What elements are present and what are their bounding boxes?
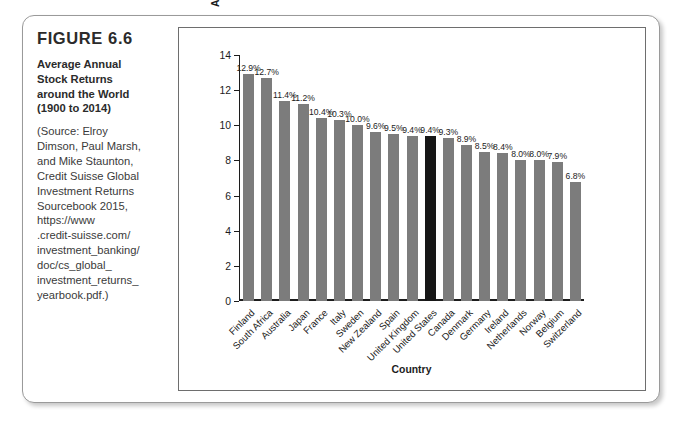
y-axis-tick-label: 12 [219,85,231,96]
figure-source-line: investment_banking/ [37,243,168,258]
bar-slot[interactable]: 10.3% [331,55,349,301]
figure-title-line: Average Annual [37,57,168,72]
bar[interactable]: 12.9% [243,74,254,301]
y-axis-tick-mark [234,196,239,197]
bar[interactable]: 9.3% [443,138,454,301]
bar-value-label: 12.7% [255,67,279,77]
figure-source-line: .credit-suisse.com/ [37,228,168,243]
bar-value-label: 9.3% [439,127,459,137]
bar-value-label: 9.4% [402,125,422,135]
bar-slot[interactable]: 9.4% [422,55,440,301]
figure-source-line: Sourcebook 2015, [37,199,168,214]
bar-slot[interactable]: 10.0% [349,55,367,301]
bar[interactable]: 8.9% [461,145,472,301]
bar[interactable]: 12.7% [261,78,272,301]
bar[interactable]: 10.0% [352,125,363,301]
bar[interactable]: 9.4% [407,136,418,301]
y-axis-title: Average Annual Stock Return [209,0,223,50]
bar[interactable]: 6.8% [570,182,581,301]
bar[interactable]: 10.4% [316,118,327,301]
bar-value-label: 11.2% [291,93,315,103]
bar-slot[interactable]: 9.5% [385,55,403,301]
bar-slot[interactable]: 8.0% [531,55,549,301]
bar-slot[interactable]: 9.4% [404,55,422,301]
bar-value-label: 8.0% [511,149,531,159]
y-axis-tick-mark [234,125,239,126]
bar-slot[interactable]: 8.4% [494,55,512,301]
figure-source-line: Dimson, Paul Marsh, [37,139,168,154]
figure-title-line: (1900 to 2014) [37,101,168,116]
bar-slot[interactable]: 11.2% [295,55,313,301]
figure-number: FIGURE 6.6 [37,29,168,48]
bar[interactable]: 8.0% [515,160,526,301]
figure-source-line: Investment Returns [37,184,168,199]
bar-slot[interactable]: 12.9% [240,55,258,301]
y-axis-tick-mark [234,301,239,302]
bar-value-label: 9.5% [384,123,404,133]
figure-card: FIGURE 6.6 Average AnnualStock Returnsar… [22,15,660,403]
bar[interactable]: 9.5% [388,134,399,301]
bar-slot[interactable]: 7.9% [549,55,567,301]
figure-source-line: Credit Suisse Global [37,169,168,184]
bar-slot[interactable]: 8.9% [458,55,476,301]
bar[interactable]: 11.2% [298,104,309,301]
y-axis-tick-mark [234,266,239,267]
x-axis-title: Country [239,364,584,375]
bar-slot[interactable]: 11.4% [276,55,294,301]
bar[interactable]: 8.4% [497,153,508,301]
bar-slot[interactable]: 9.6% [367,55,385,301]
bar-slot[interactable]: 8.5% [476,55,494,301]
bar-slot[interactable]: 10.4% [313,55,331,301]
figure-source-line: doc/cs_global_ [37,258,168,273]
bar[interactable]: 9.6% [370,132,381,301]
bar[interactable]: 9.4% [425,136,436,301]
figure-source-line: and Mike Staunton, [37,154,168,169]
bar-value-label: 8.9% [457,134,477,144]
bar[interactable]: 8.5% [479,152,490,301]
y-axis-tick-label: 4 [225,225,231,236]
figure-source-line: https://www [37,213,168,228]
figure-title: Average AnnualStock Returnsaround the Wo… [37,57,168,116]
bar-value-label: 9.4% [420,125,440,135]
chart-panel: Average Annual Stock Return 02468101214 … [178,27,646,391]
bar-slot[interactable]: 6.8% [567,55,585,301]
bar-value-label: 6.8% [566,171,586,181]
y-axis-tick-label: 6 [225,190,231,201]
bar[interactable]: 10.3% [334,120,345,301]
bar-value-label: 8.0% [529,149,549,159]
figure-source-line: investment_returns_ [37,273,168,288]
bar-slot[interactable]: 9.3% [440,55,458,301]
figure-source-note: (Source: ElroyDimson, Paul Marsh,and Mik… [37,124,168,303]
bar-value-label: 8.5% [475,141,495,151]
figure-title-line: Stock Returns [37,72,168,87]
bar-value-label: 8.4% [493,142,513,152]
figure-source-line: (Source: Elroy [37,124,168,139]
y-axis-tick-label: 14 [219,50,231,61]
y-axis-tick-mark [234,90,239,91]
bar-value-label: 7.9% [547,151,567,161]
y-axis-tick-mark [234,55,239,56]
bar[interactable]: 7.9% [552,162,563,301]
y-axis-tick-label: 0 [225,296,231,307]
bar-slot[interactable]: 8.0% [512,55,530,301]
y-axis-tick-mark [234,160,239,161]
y-axis-tick-label: 2 [225,260,231,271]
figure-title-line: around the World [37,87,168,102]
bar[interactable]: 8.0% [534,160,545,301]
figure-source-line: yearbook.pdf.) [37,288,168,303]
bar-value-label: 9.6% [366,121,386,131]
y-axis-tick-label: 8 [225,155,231,166]
bar[interactable]: 11.4% [279,101,290,301]
plot-area: 02468101214 12.9%12.7%11.4%11.2%10.4%10.… [239,55,584,301]
figure-caption-column: FIGURE 6.6 Average AnnualStock Returnsar… [37,29,168,303]
y-axis-tick-mark [234,231,239,232]
y-axis-tick-label: 10 [219,120,231,131]
